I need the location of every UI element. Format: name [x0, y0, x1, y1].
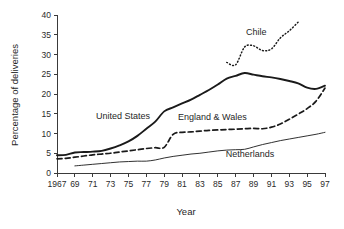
series-label-united-states: United States — [96, 111, 151, 121]
y-tick-label: 40 — [42, 10, 52, 20]
y-tick-label: 0 — [46, 168, 51, 178]
x-tick-label: 69 — [70, 179, 80, 189]
x-tick-label: 73 — [106, 179, 116, 189]
y-tick-label: 5 — [46, 148, 51, 158]
series-labels: United StatesEngland & WalesNetherlandsC… — [96, 27, 275, 159]
x-tick-label: 85 — [213, 179, 223, 189]
x-tick-label: 81 — [177, 179, 187, 189]
x-tick-label: 77 — [142, 179, 152, 189]
x-tick-label: 93 — [285, 179, 295, 189]
x-tick-label: 87 — [231, 179, 241, 189]
y-tick-label: 10 — [42, 129, 52, 139]
x-axis-title: Year — [176, 206, 195, 217]
x-tick-label: 71 — [88, 179, 98, 189]
y-tick-label: 20 — [42, 89, 52, 99]
y-tick-label: 35 — [42, 30, 52, 40]
x-tick-label: 75 — [124, 179, 134, 189]
chart-figure: 0510152025303540 19676971737577798183858… — [0, 0, 344, 229]
x-axis: 1967697173757779818385878991939597 — [48, 173, 330, 189]
x-tick-label: 89 — [249, 179, 259, 189]
x-tick-label: 95 — [302, 179, 312, 189]
x-tick-label: 79 — [159, 179, 169, 189]
x-tick-label: 1967 — [48, 179, 67, 189]
series-lines — [57, 22, 325, 166]
x-tick-label: 97 — [320, 179, 330, 189]
series-label-netherlands: Netherlands — [226, 149, 275, 159]
series-line-netherlands — [75, 132, 325, 166]
y-tick-label: 25 — [42, 69, 52, 79]
y-tick-label: 30 — [42, 50, 52, 60]
series-label-england-wales: England & Wales — [178, 112, 247, 122]
y-tick-label: 15 — [42, 109, 52, 119]
y-axis: 0510152025303540 — [42, 10, 57, 178]
line-chart: 0510152025303540 19676971737577798183858… — [0, 0, 344, 229]
y-axis-title: Percentage of deliveries — [9, 44, 20, 146]
x-tick-label: 91 — [267, 179, 277, 189]
series-label-chile: Chile — [246, 27, 267, 37]
x-tick-label: 83 — [195, 179, 205, 189]
